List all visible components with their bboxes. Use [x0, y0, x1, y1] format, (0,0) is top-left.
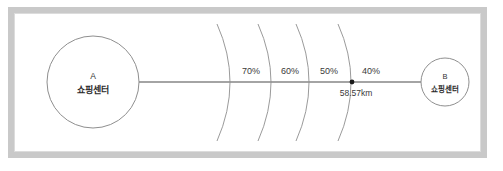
diagram-canvas: A 쇼핑센터 B 쇼핑센터 70% 60% 50% 40% 58.57km: [0, 0, 503, 171]
arc-label-40: 40%: [362, 66, 380, 76]
arc-label-50: 50%: [320, 66, 338, 76]
breaking-point-distance-label: 58.57km: [340, 88, 373, 98]
node-a-circle: [47, 36, 139, 128]
figure-root: A 쇼핑센터 B 쇼핑센터 70% 60% 50% 40% 58.57km: [0, 0, 503, 171]
node-b-circle: [421, 58, 469, 106]
node-a-name: 쇼핑센터: [77, 84, 109, 95]
arc-label-60: 60%: [281, 66, 299, 76]
node-a-letter: A: [90, 71, 96, 81]
node-b-letter: B: [442, 72, 447, 81]
arc-label-70: 70%: [242, 66, 260, 76]
node-b-name: 쇼핑센터: [431, 84, 459, 94]
breaking-point-dot: [350, 80, 355, 85]
